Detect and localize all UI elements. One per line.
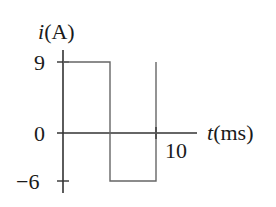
y-tick-label-9: 9 (34, 50, 45, 75)
current-waveform (63, 62, 156, 181)
y-axis-label: i(A) (38, 19, 75, 44)
waveform-diagram: i(A) 9 0 −6 10 t(ms) (0, 0, 276, 207)
x-axis-label: t(ms) (207, 120, 253, 145)
y-tick-label-0: 0 (34, 121, 45, 146)
y-tick-label-neg6: −6 (16, 169, 39, 194)
x-tick-label-10: 10 (165, 138, 187, 163)
